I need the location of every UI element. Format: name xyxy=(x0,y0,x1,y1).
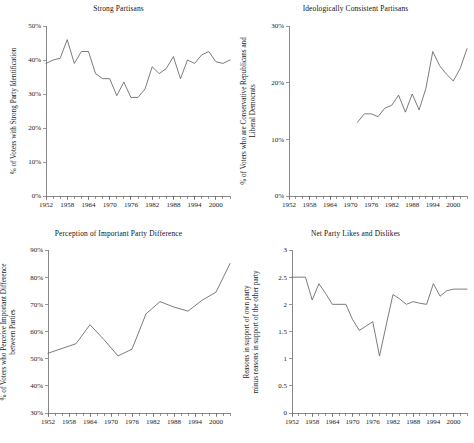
svg-text:0%: 0% xyxy=(275,192,285,200)
svg-text:1952: 1952 xyxy=(41,418,56,426)
svg-text:Liberal Democrats: Liberal Democrats xyxy=(249,84,257,138)
svg-text:2000: 2000 xyxy=(447,418,462,426)
svg-text:0%: 0% xyxy=(32,192,42,200)
svg-text:60%: 60% xyxy=(30,328,43,336)
svg-text:40%: 40% xyxy=(28,56,41,64)
svg-text:1982: 1982 xyxy=(146,418,161,426)
svg-text:1994: 1994 xyxy=(188,201,203,209)
svg-text:10%: 10% xyxy=(271,136,284,144)
panel-net-party-likes-dislikes: Net Party Likes and Dislikes 00.511.522.… xyxy=(237,222,474,443)
svg-text:% of Voters who Perceive Impor: % of Voters who Perceive Important Diffe… xyxy=(0,264,8,401)
svg-text:70%: 70% xyxy=(30,301,43,309)
svg-text:1970: 1970 xyxy=(346,418,361,426)
svg-text:1982: 1982 xyxy=(385,201,400,209)
chart-perception-of-party-difference: 30%40%50%60%70%80%90%1952195819641970197… xyxy=(0,222,237,443)
svg-text:1994: 1994 xyxy=(426,418,441,426)
svg-text:20%: 20% xyxy=(28,124,41,132)
svg-text:1952: 1952 xyxy=(285,418,300,426)
series-line xyxy=(46,40,230,98)
chart-net-party-likes-dislikes: 00.511.522.53195219581964197019761982198… xyxy=(237,222,474,443)
svg-text:10%: 10% xyxy=(28,158,41,166)
svg-text:1958: 1958 xyxy=(303,201,318,209)
svg-text:1970: 1970 xyxy=(344,201,359,209)
svg-text:50%: 50% xyxy=(30,355,43,363)
svg-text:2000: 2000 xyxy=(209,201,224,209)
svg-text:20%: 20% xyxy=(271,79,284,87)
svg-text:1.5: 1.5 xyxy=(278,328,287,336)
svg-text:1982: 1982 xyxy=(145,201,160,209)
svg-text:1: 1 xyxy=(284,355,288,363)
panel-ideologically-consistent-partisans: Ideologically Consistent Partisans 0%10%… xyxy=(237,0,474,222)
svg-text:1964: 1964 xyxy=(323,201,338,209)
svg-text:0.5: 0.5 xyxy=(278,382,287,390)
chart-ideologically-consistent-partisans: 0%10%20%30%19521958196419701976198219881… xyxy=(237,0,474,222)
series-line xyxy=(357,49,467,123)
svg-text:40%: 40% xyxy=(30,382,43,390)
svg-text:1970: 1970 xyxy=(103,201,118,209)
svg-text:1952: 1952 xyxy=(39,201,54,209)
svg-text:1988: 1988 xyxy=(406,418,421,426)
svg-text:2: 2 xyxy=(284,301,288,309)
svg-text:1976: 1976 xyxy=(124,201,139,209)
series-line xyxy=(48,264,230,356)
svg-text:1988: 1988 xyxy=(405,201,420,209)
chart-strong-partisans: 0%10%20%30%40%50%19521958196419701976198… xyxy=(0,0,237,222)
svg-text:1970: 1970 xyxy=(104,418,119,426)
figure-four-panel-charts: Strong Partisans 0%10%20%30%40%50%195219… xyxy=(0,0,474,443)
svg-text:1952: 1952 xyxy=(282,201,297,209)
svg-text:90%: 90% xyxy=(30,246,43,254)
svg-text:1964: 1964 xyxy=(325,418,340,426)
svg-text:50%: 50% xyxy=(28,22,41,30)
svg-text:1988: 1988 xyxy=(167,418,182,426)
svg-text:1958: 1958 xyxy=(305,418,320,426)
svg-text:30%: 30% xyxy=(28,90,41,98)
series-line xyxy=(292,277,467,356)
svg-text:1982: 1982 xyxy=(386,418,401,426)
svg-text:1994: 1994 xyxy=(426,201,441,209)
svg-text:2.5: 2.5 xyxy=(278,274,287,282)
svg-text:between Parties: between Parties xyxy=(9,309,17,355)
svg-text:1964: 1964 xyxy=(83,418,98,426)
svg-text:0: 0 xyxy=(284,409,288,417)
svg-text:1964: 1964 xyxy=(81,201,96,209)
svg-text:30%: 30% xyxy=(30,409,43,417)
svg-text:1976: 1976 xyxy=(125,418,140,426)
svg-text:3: 3 xyxy=(284,246,288,254)
svg-text:2000: 2000 xyxy=(446,201,461,209)
svg-text:1994: 1994 xyxy=(188,418,203,426)
panel-perception-of-party-difference: Perception of Important Party Difference… xyxy=(0,222,237,443)
svg-text:80%: 80% xyxy=(30,274,43,282)
svg-text:1988: 1988 xyxy=(166,201,181,209)
svg-text:2000: 2000 xyxy=(209,418,224,426)
svg-text:minus reasons in support of th: minus reasons in support of the other pa… xyxy=(252,270,260,394)
panel-strong-partisans: Strong Partisans 0%10%20%30%40%50%195219… xyxy=(0,0,237,222)
svg-text:30%: 30% xyxy=(271,22,284,30)
svg-text:Reasons in support of own part: Reasons in support of own party xyxy=(243,285,251,379)
svg-text:1976: 1976 xyxy=(364,201,379,209)
svg-text:1958: 1958 xyxy=(62,418,77,426)
svg-text:1976: 1976 xyxy=(366,418,381,426)
svg-text:% of Voters with Strong Party: % of Voters with Strong Party Identifica… xyxy=(10,47,18,174)
svg-text:% of Voters who are Conservati: % of Voters who are Conservative Republi… xyxy=(240,37,248,185)
svg-text:1958: 1958 xyxy=(60,201,75,209)
